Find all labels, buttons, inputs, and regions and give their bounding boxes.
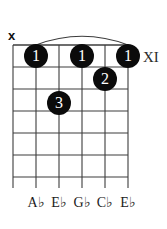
note-label-string2: A♭ — [27, 196, 44, 210]
finger-dot-string5-fret2: 2 — [93, 67, 117, 91]
note-label-string4: G♭ — [73, 196, 90, 210]
fret-position-label: XI — [143, 50, 159, 65]
chord-diagram: x 11123 A♭E♭G♭C♭E♭ XI — [0, 0, 167, 229]
note-label-string5: C♭ — [97, 196, 113, 210]
finger-dot-string4-fret1: 1 — [70, 44, 94, 68]
finger-dot-string6-fret1: 1 — [116, 44, 140, 68]
note-label-string6: E♭ — [120, 196, 136, 210]
note-label-string3: E♭ — [51, 196, 67, 210]
finger-dot-string2-fret1: 1 — [24, 44, 48, 68]
finger-dot-string3-fret3: 3 — [47, 91, 71, 115]
mute-string-1: x — [8, 29, 15, 42]
